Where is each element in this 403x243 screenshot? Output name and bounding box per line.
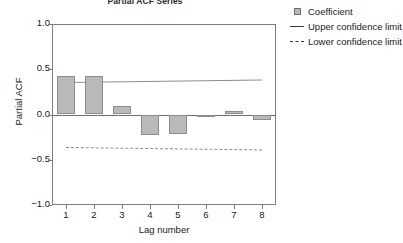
- x-tick-mark: [262, 205, 263, 209]
- x-tick-mark: [122, 205, 123, 209]
- x-tick-label: 4: [140, 209, 160, 220]
- y-tick-label: 0.5: [0, 62, 50, 73]
- x-tick-label: 1: [56, 209, 76, 220]
- x-tick-mark: [66, 205, 67, 209]
- bar[interactable]: [57, 76, 74, 114]
- pacf-chart: Partial ACF Series Partial ACF 1.00.50.0…: [0, 0, 403, 243]
- bar[interactable]: [225, 111, 242, 115]
- x-tick-label: 8: [252, 209, 272, 220]
- bar[interactable]: [141, 115, 158, 136]
- zero-reference-line: [53, 115, 275, 116]
- bar[interactable]: [85, 76, 102, 115]
- x-tick-mark: [178, 205, 179, 209]
- coefficient-swatch-icon: [286, 8, 308, 15]
- x-tick-mark: [150, 205, 151, 209]
- x-tick-label: 7: [224, 209, 244, 220]
- legend-label: Lower confidence limit: [308, 36, 402, 47]
- y-tick-mark: [48, 205, 52, 206]
- legend-label: Upper confidence limit: [308, 21, 402, 32]
- legend-item-lower-limit: Lower confidence limit: [286, 34, 403, 48]
- legend-label: Coefficient: [308, 6, 353, 17]
- bar[interactable]: [113, 106, 130, 114]
- bar[interactable]: [169, 115, 186, 135]
- solid-line-icon: [286, 26, 308, 27]
- x-tick-mark: [234, 205, 235, 209]
- y-tick-label: −0.5: [0, 153, 50, 164]
- dashed-line-icon: [286, 41, 308, 42]
- x-tick-mark: [94, 205, 95, 209]
- legend: Coefficient Upper confidence limit Lower…: [286, 4, 403, 49]
- legend-item-coefficient: Coefficient: [286, 4, 403, 18]
- y-tick-label: 1.0: [0, 17, 50, 28]
- x-tick-label: 6: [196, 209, 216, 220]
- x-tick-label: 2: [84, 209, 104, 220]
- plot-area: [52, 24, 276, 205]
- y-tick-label: −1.0: [0, 198, 50, 209]
- x-axis-label: Lag number: [52, 224, 276, 235]
- x-tick-label: 5: [168, 209, 188, 220]
- legend-item-upper-limit: Upper confidence limit: [286, 19, 403, 33]
- y-tick-label: 0.0: [0, 108, 50, 119]
- chart-title: Partial ACF Series: [0, 0, 290, 4]
- x-tick-mark: [206, 205, 207, 209]
- x-tick-label: 3: [112, 209, 132, 220]
- bar[interactable]: [253, 115, 270, 120]
- bar[interactable]: [197, 115, 214, 117]
- y-axis-label: Partial ACF: [13, 62, 24, 142]
- lower-confidence-limit-line: [66, 147, 262, 150]
